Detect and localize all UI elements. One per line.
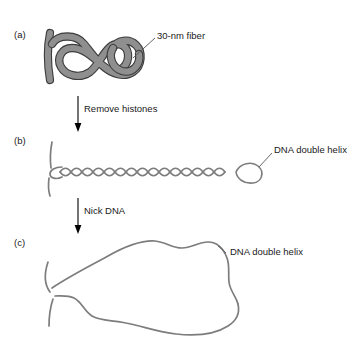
callout-leader-c bbox=[218, 246, 226, 253]
panel-a-graphic bbox=[48, 33, 155, 80]
relaxed-vertical-strand-top bbox=[45, 262, 50, 292]
dna-supercoiling-figure: (a) 30-nm fiber Remove histones (b) DNA … bbox=[0, 0, 351, 348]
relaxed-loop-upper bbox=[52, 241, 238, 304]
step-label-nick-dna: Nick DNA bbox=[84, 206, 125, 216]
panel-b-graphic bbox=[48, 142, 272, 196]
arrow-remove-histones bbox=[75, 96, 82, 132]
supercoil-end-loop bbox=[236, 163, 262, 183]
figure-graphics bbox=[0, 0, 351, 348]
arrow-nick-dna bbox=[75, 198, 82, 234]
supercoil-vertical-strand-top bbox=[50, 142, 52, 168]
callout-dna-double-helix-c: DNA double helix bbox=[230, 247, 303, 257]
supercoil-vertical-strand-bottom bbox=[48, 178, 50, 196]
panel-letter-c: (c) bbox=[14, 238, 25, 248]
step-label-remove-histones: Remove histones bbox=[84, 104, 157, 114]
panel-c-graphic bbox=[45, 241, 238, 335]
relaxed-vertical-strand-bottom bbox=[49, 299, 53, 326]
callout-30nm-fiber: 30-nm fiber bbox=[157, 31, 205, 41]
callout-leader-b bbox=[259, 153, 272, 167]
callout-dna-double-helix-b: DNA double helix bbox=[274, 145, 347, 155]
relaxed-loop-lower bbox=[55, 296, 239, 335]
panel-letter-a: (a) bbox=[14, 30, 26, 40]
panel-letter-b: (b) bbox=[14, 136, 26, 146]
